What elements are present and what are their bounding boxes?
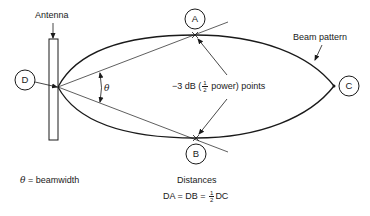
distances-eq-prefix: DA = DB = bbox=[163, 191, 208, 201]
beamwidth-line-lower bbox=[58, 87, 228, 152]
point-a-label: A bbox=[185, 9, 205, 29]
fraction-numerator: 1 bbox=[209, 190, 214, 197]
antenna-label: Antenna bbox=[35, 11, 69, 20]
distances-fraction: 12 bbox=[209, 190, 214, 203]
distances-title: Distances bbox=[177, 176, 217, 185]
beamwidth-legend-text: = beamwidth bbox=[25, 175, 79, 185]
point-d-arrow bbox=[35, 82, 57, 87]
distances-eq-suffix: DC bbox=[215, 191, 228, 201]
beamwidth-line-upper bbox=[58, 22, 228, 87]
beam-pattern-label: Beam pattern bbox=[293, 33, 347, 42]
half-power-arrow-lower bbox=[199, 99, 227, 134]
point-b-label: B bbox=[186, 144, 206, 164]
beam-pattern-pointer-arrow bbox=[315, 45, 322, 60]
distances-equation: DA = DB = 12DC bbox=[163, 190, 228, 203]
half-power-arrow-upper bbox=[198, 39, 227, 75]
half-fraction: 12 bbox=[202, 80, 207, 93]
half-power-prefix: −3 dB ( bbox=[172, 81, 201, 91]
antenna-element bbox=[49, 39, 58, 140]
half-power-points-label: −3 dB (12 power) points bbox=[172, 80, 265, 93]
point-d-label: D bbox=[15, 70, 35, 90]
point-c-label: C bbox=[339, 76, 359, 96]
fraction-denominator: 2 bbox=[209, 197, 214, 203]
fraction-denominator: 2 bbox=[202, 87, 207, 93]
fraction-numerator: 1 bbox=[202, 80, 207, 87]
half-power-suffix: power) points bbox=[209, 81, 266, 91]
beamwidth-legend: θ = beamwidth bbox=[20, 176, 79, 185]
point-c-tip bbox=[333, 85, 336, 88]
theta-symbol: θ bbox=[104, 84, 109, 93]
theta-angle-arc bbox=[100, 73, 102, 102]
